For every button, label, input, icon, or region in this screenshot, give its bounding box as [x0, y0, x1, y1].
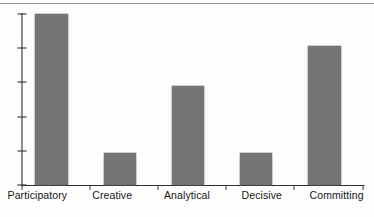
bar-creative — [104, 153, 136, 185]
bar-analytical — [172, 86, 204, 185]
bar-participatory — [35, 14, 68, 185]
x-axis-labels: Participatory Creative Analytical Decisi… — [0, 189, 374, 209]
bar-chart-figure: Participatory Creative Analytical Decisi… — [0, 0, 374, 217]
x-label-decisive: Decisive — [224, 189, 299, 202]
x-label-creative: Creative — [75, 189, 150, 202]
bar-decisive — [240, 153, 272, 185]
x-label-committing: Committing — [299, 189, 374, 202]
plot-area: Participatory Creative Analytical Decisi… — [0, 0, 374, 217]
x-label-participatory: Participatory — [0, 189, 75, 202]
x-label-analytical: Analytical — [150, 189, 225, 202]
bars-group — [35, 14, 341, 185]
bar-committing — [308, 46, 341, 185]
chart-canvas — [0, 0, 374, 217]
